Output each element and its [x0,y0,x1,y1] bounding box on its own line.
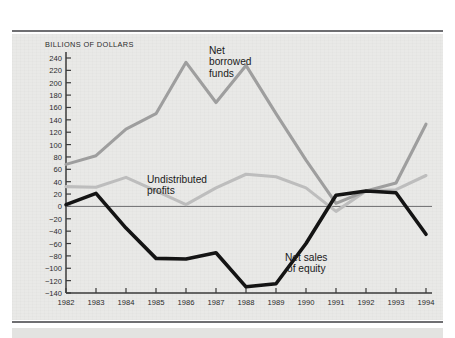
series-label-net-sales-of-equity: Net sales of equity [285,252,327,275]
figure-root: BILLIONS OF DOLLARS 24022020018016014012… [0,0,455,338]
footer-strip [12,328,443,338]
top-divider [12,30,443,32]
series-label-net-borrowed-funds: Net borrowed funds [209,45,251,79]
bottom-divider [12,321,443,323]
series-line-net-sales-of-equity [66,191,426,287]
series-label-undistributed-profits: Undistributed profits [147,174,207,197]
chart-panel: BILLIONS OF DOLLARS 24022020018016014012… [12,34,443,320]
series-line-net-borrowed-funds [66,62,426,203]
